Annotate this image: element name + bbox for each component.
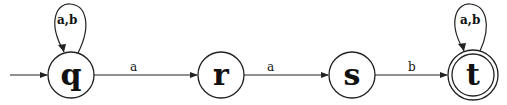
loop-t-arrowhead: [458, 43, 466, 51]
state-s-label: s: [344, 57, 361, 92]
loop-q-arrowhead: [58, 44, 66, 52]
edge-s-t-label: b: [408, 60, 416, 74]
state-r-label: r: [213, 57, 230, 92]
edge-q-r-label: a: [130, 60, 137, 74]
loop-t-label: a,b: [460, 13, 480, 27]
state-q: q: [48, 52, 94, 98]
loop-q-label: a,b: [57, 13, 77, 27]
dfa-diagram: a,b a a b a,b q r s t: [0, 0, 507, 105]
edge-r-s-label: a: [267, 60, 274, 74]
state-r: r: [198, 52, 244, 98]
state-q-label: q: [61, 57, 82, 92]
state-s: s: [329, 52, 375, 98]
state-t-label: t: [466, 57, 480, 92]
state-t-accepting: t: [448, 50, 498, 100]
